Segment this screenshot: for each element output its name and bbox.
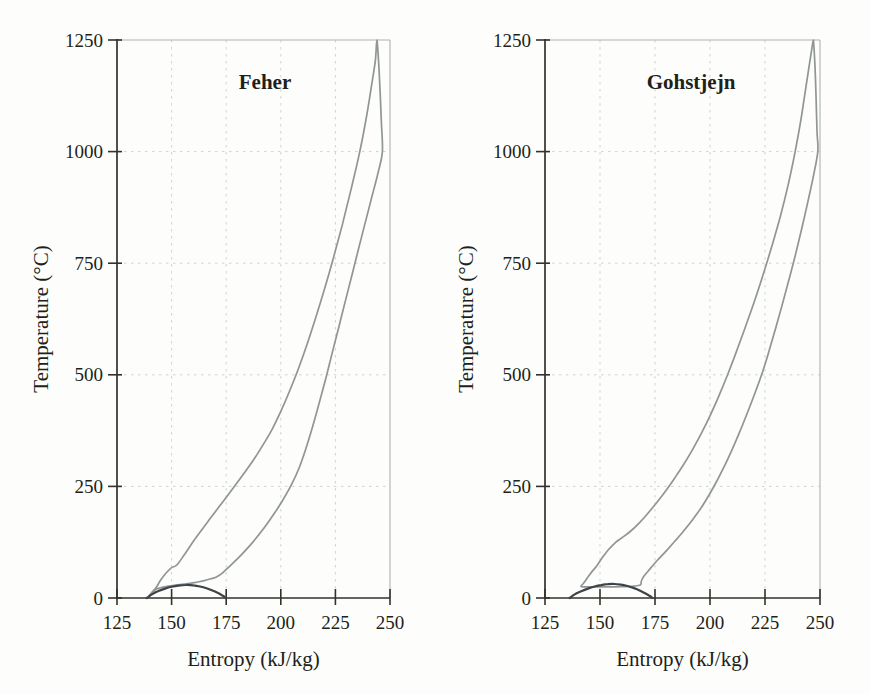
y-tick-label: 500 (75, 364, 104, 385)
x-axis-label: Entropy (kJ/kg) (616, 647, 748, 671)
chart-feher: 125150175200225250025050075010001250Entr… (0, 0, 435, 694)
x-tick-label: 250 (376, 612, 405, 633)
x-tick-label: 175 (641, 612, 670, 633)
chart-title: Feher (239, 70, 291, 94)
ts-diagrams-row: 125150175200225250025050075010001250Entr… (0, 0, 870, 694)
y-axis-label: Temperature (°C) (29, 245, 53, 392)
saturation-dome-curve (147, 585, 226, 598)
chart-gohstjejn: 125150175200225250025050075010001250Entr… (435, 0, 870, 694)
y-tick-label: 1000 (65, 141, 103, 162)
y-axis-label: Temperature (°C) (454, 245, 478, 392)
y-tick-label: 250 (503, 476, 532, 497)
y-tick-label: 750 (503, 253, 532, 274)
gohstjejn-ts-diagram: 125150175200225250025050075010001250Entr… (435, 0, 870, 694)
y-tick-label: 1250 (493, 30, 531, 51)
x-tick-label: 200 (267, 612, 296, 633)
chart-title: Gohstjejn (647, 70, 736, 94)
x-tick-label: 250 (806, 612, 835, 633)
y-tick-label: 0 (522, 588, 532, 609)
x-tick-label: 150 (586, 612, 615, 633)
x-tick-label: 150 (157, 612, 186, 633)
y-tick-label: 250 (75, 476, 104, 497)
x-tick-label: 125 (103, 612, 132, 633)
figure-canvas: 125150175200225250025050075010001250Entr… (0, 0, 870, 694)
y-tick-label: 500 (503, 364, 532, 385)
feher-ts-diagram: 125150175200225250025050075010001250Entr… (0, 0, 435, 694)
x-tick-label: 125 (531, 612, 560, 633)
x-tick-label: 225 (751, 612, 780, 633)
x-tick-label: 225 (321, 612, 350, 633)
x-tick-label: 175 (212, 612, 241, 633)
x-axis-label: Entropy (kJ/kg) (187, 647, 319, 671)
x-tick-label: 200 (696, 612, 725, 633)
y-tick-label: 1000 (493, 141, 531, 162)
cycle-curve (581, 40, 818, 587)
y-tick-label: 750 (75, 253, 104, 274)
y-tick-label: 0 (94, 588, 104, 609)
y-tick-label: 1250 (65, 30, 103, 51)
cycle-curve (149, 40, 383, 596)
